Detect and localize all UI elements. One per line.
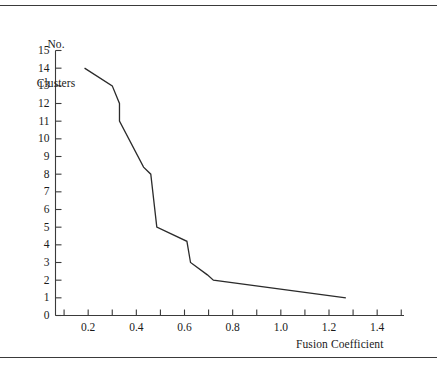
x-tick-label: 0.2 bbox=[71, 321, 105, 333]
x-tick-label: 0.6 bbox=[168, 321, 202, 333]
figure-container: No. Clusters Fusion Coefficient 01234567… bbox=[0, 0, 437, 371]
x-tick-label: 1.2 bbox=[312, 321, 346, 333]
y-tick-label: 10 bbox=[28, 132, 50, 144]
y-tick-label: 2 bbox=[28, 274, 50, 286]
y-tick-label: 4 bbox=[28, 238, 50, 250]
y-tick-label: 7 bbox=[28, 185, 50, 197]
y-tick-label: 8 bbox=[28, 168, 50, 180]
y-tick-label: 11 bbox=[28, 115, 50, 127]
y-tick-label: 0 bbox=[28, 309, 50, 321]
x-tick-label: 1.0 bbox=[264, 321, 298, 333]
data-series-group bbox=[85, 68, 346, 298]
y-tick-label: 9 bbox=[28, 150, 50, 162]
x-tick-label: 0.8 bbox=[216, 321, 250, 333]
y-tick-label: 5 bbox=[28, 221, 50, 233]
x-tick-label: 1.4 bbox=[360, 321, 394, 333]
y-tick-label: 12 bbox=[28, 97, 50, 109]
y-tick-label: 6 bbox=[28, 203, 50, 215]
x-axis-label: Fusion Coefficient bbox=[296, 338, 384, 351]
tick-marks-group bbox=[56, 51, 402, 316]
y-tick-label: 3 bbox=[28, 256, 50, 268]
y-tick-label: 13 bbox=[28, 79, 50, 91]
data-line-0 bbox=[85, 68, 346, 298]
y-tick-label: 15 bbox=[28, 44, 50, 56]
y-tick-label: 14 bbox=[28, 62, 50, 74]
axes-group bbox=[56, 51, 405, 316]
y-tick-label: 1 bbox=[28, 291, 50, 303]
x-tick-label: 0.4 bbox=[119, 321, 153, 333]
